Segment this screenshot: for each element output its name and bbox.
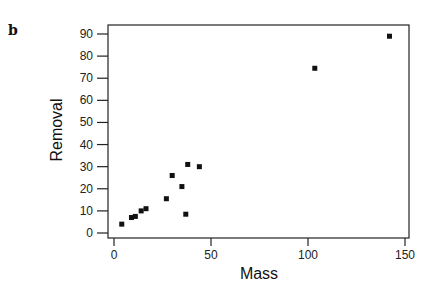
y-tick-label: 30 — [80, 160, 94, 174]
y-tick-label: 60 — [80, 93, 94, 107]
y-tick-label: 80 — [80, 49, 94, 63]
data-point — [185, 162, 190, 167]
data-point — [119, 222, 124, 227]
data-point — [179, 184, 184, 189]
data-point — [133, 214, 138, 219]
x-tick-label: 100 — [298, 248, 318, 262]
x-axis: 050100150 — [111, 238, 416, 262]
x-tick-label: 50 — [204, 248, 218, 262]
plot-frame — [108, 25, 409, 238]
data-point — [164, 196, 169, 201]
y-tick-label: 70 — [80, 71, 94, 85]
x-tick-label: 0 — [111, 248, 118, 262]
y-tick-label: 10 — [80, 204, 94, 218]
y-tick-label: 40 — [80, 138, 94, 152]
data-point — [139, 208, 144, 213]
y-tick-label: 50 — [80, 115, 94, 129]
data-point — [183, 212, 188, 217]
y-axis: 0102030405060708090 — [80, 27, 108, 240]
panel-label: b — [8, 22, 18, 38]
data-point — [312, 66, 317, 71]
data-point — [144, 206, 149, 211]
x-tick-label: 150 — [395, 248, 415, 262]
y-tick-label: 90 — [80, 27, 94, 41]
y-tick-label: 20 — [80, 182, 94, 196]
scatter-chart: b 0102030405060708090 050100150 Mass Rem… — [0, 0, 428, 292]
y-tick-label: 0 — [86, 226, 93, 240]
x-axis-title: Mass — [240, 265, 278, 282]
data-points — [119, 34, 392, 227]
data-point — [170, 173, 175, 178]
data-point — [387, 34, 392, 39]
y-axis-title: Removal — [48, 98, 65, 161]
plot-area — [108, 25, 409, 238]
data-point — [197, 164, 202, 169]
